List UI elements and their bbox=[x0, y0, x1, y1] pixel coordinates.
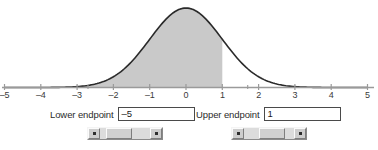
shaded-area-under-curve bbox=[5, 8, 223, 88]
lower-endpoint-increment-button[interactable] bbox=[150, 128, 162, 139]
x-axis-tick-label: 4 bbox=[321, 90, 341, 100]
x-axis-tick-label: –5 bbox=[0, 90, 15, 100]
lower-endpoint-decrement-button[interactable] bbox=[88, 128, 100, 139]
upper-endpoint-label: Upper endpoint bbox=[196, 109, 260, 120]
right-arrow-icon bbox=[299, 132, 302, 135]
normal-distribution-applet: –5–4–3–2–1012345 Lower endpoint –5 Upper… bbox=[0, 0, 378, 150]
x-axis-tick-label: –2 bbox=[103, 90, 123, 100]
right-arrow-icon bbox=[155, 132, 158, 135]
x-axis-tick-label: 3 bbox=[285, 90, 305, 100]
normal-curve-svg bbox=[0, 0, 378, 100]
x-axis-tick-label: –1 bbox=[140, 90, 160, 100]
upper-endpoint-scroll-thumb[interactable] bbox=[259, 128, 285, 139]
left-arrow-icon bbox=[237, 132, 240, 135]
x-axis-tick-label: 0 bbox=[176, 90, 196, 100]
x-axis-tick-label: 5 bbox=[358, 90, 378, 100]
left-arrow-icon bbox=[93, 132, 96, 135]
normal-curve-chart: –5–4–3–2–1012345 bbox=[0, 0, 378, 100]
upper-endpoint-input[interactable]: 1 bbox=[264, 107, 341, 121]
lower-endpoint-input[interactable]: –5 bbox=[118, 107, 195, 121]
lower-endpoint-scroll-thumb[interactable] bbox=[106, 128, 132, 139]
lower-endpoint-scrollbar[interactable] bbox=[87, 127, 163, 140]
lower-endpoint-label: Lower endpoint bbox=[50, 109, 114, 120]
x-axis-tick-label: 1 bbox=[212, 90, 232, 100]
x-axis-tick-label: 2 bbox=[249, 90, 269, 100]
x-axis-tick-label: –3 bbox=[67, 90, 87, 100]
upper-endpoint-scrollbar[interactable] bbox=[231, 127, 307, 140]
upper-endpoint-decrement-button[interactable] bbox=[232, 128, 244, 139]
x-axis-tick-label: –4 bbox=[31, 90, 51, 100]
upper-endpoint-increment-button[interactable] bbox=[294, 128, 306, 139]
upper-endpoint-row: Upper endpoint 1 bbox=[196, 107, 341, 121]
lower-endpoint-row: Lower endpoint –5 bbox=[50, 107, 195, 121]
